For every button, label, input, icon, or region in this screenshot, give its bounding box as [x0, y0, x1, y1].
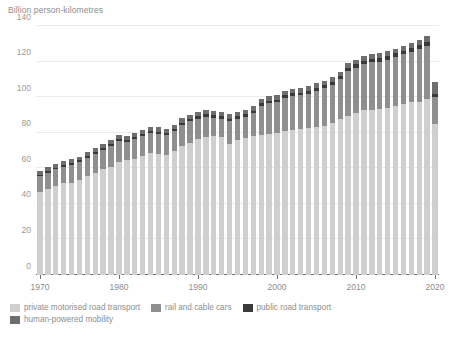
bar-segment	[219, 137, 224, 275]
bar	[69, 159, 74, 275]
y-axis-tick-label: 120	[17, 47, 31, 57]
bar	[195, 112, 200, 275]
bar	[353, 60, 358, 275]
bar	[401, 46, 406, 275]
bar-segment	[322, 88, 327, 125]
bar	[424, 36, 429, 275]
bar-segment	[432, 97, 437, 124]
legend-item[interactable]: human-powered mobility	[10, 314, 113, 326]
x-axis-tick-label: 1970	[30, 282, 49, 292]
bar-segment	[290, 96, 295, 130]
bar-segment	[409, 102, 414, 275]
bar-segment	[93, 154, 98, 173]
bar-segment	[361, 110, 366, 275]
bar	[409, 43, 414, 275]
bar	[61, 161, 66, 275]
bar-segment	[353, 113, 358, 275]
bar-segment	[69, 183, 74, 275]
bar-segment	[211, 136, 216, 275]
bar-segment	[243, 138, 248, 275]
bar-segment	[77, 180, 82, 275]
x-axis-tick-label: 2020	[426, 282, 445, 292]
bar	[203, 110, 208, 275]
bar-segment	[259, 106, 264, 135]
bar-segment	[266, 134, 271, 275]
bar	[298, 88, 303, 275]
legend-item[interactable]: public road transport	[243, 302, 332, 314]
bar-segment	[203, 137, 208, 275]
bar-segment	[172, 131, 177, 151]
y-axis-tick-label: 0	[26, 261, 31, 271]
bar-segment	[164, 155, 169, 275]
bar	[393, 49, 398, 275]
bar-segment	[251, 113, 256, 136]
bar-segment	[338, 119, 343, 275]
bar-segment	[77, 162, 82, 180]
bar	[282, 91, 287, 275]
bar-segment	[385, 60, 390, 108]
bar-segment	[37, 176, 42, 192]
legend-item[interactable]: rail and cable cars	[151, 302, 231, 314]
bar	[385, 51, 390, 275]
bar-segment	[306, 128, 311, 275]
bar-segment	[124, 142, 129, 161]
legend-item[interactable]: private motorised road transport	[10, 302, 140, 314]
bar-segment	[274, 102, 279, 132]
bar-series-group	[36, 26, 439, 275]
plot-area: 020406080100120140 197019801990200020102…	[36, 26, 439, 275]
bar	[330, 77, 335, 275]
bar-segment	[156, 154, 161, 275]
bar	[361, 56, 366, 275]
bar-segment	[187, 143, 192, 276]
bar	[219, 112, 224, 275]
bar-segment	[124, 160, 129, 275]
bar-segment	[187, 121, 192, 142]
legend-row-secondary: human-powered mobility	[10, 314, 458, 326]
bar	[132, 133, 137, 275]
bar-segment	[393, 106, 398, 275]
bar-segment	[132, 139, 137, 159]
bar-segment	[377, 109, 382, 275]
bar	[377, 53, 382, 275]
bar-segment	[409, 52, 414, 103]
bar-segment	[148, 153, 153, 275]
bar	[345, 63, 350, 275]
bar	[211, 111, 216, 275]
bar	[314, 83, 319, 275]
bar	[187, 115, 192, 275]
bar	[266, 96, 271, 275]
bar	[53, 164, 58, 275]
bar-segment	[37, 192, 42, 275]
bar-segment	[100, 150, 105, 170]
bar	[179, 118, 184, 275]
bar-segment	[424, 99, 429, 275]
bar-segment	[100, 169, 105, 275]
bar	[77, 157, 82, 275]
bar-segment	[401, 54, 406, 104]
y-axis-tick-label: 100	[17, 83, 31, 93]
bar-segment	[432, 82, 437, 94]
legend-swatch-icon	[151, 304, 161, 312]
chart-container: Billion person-kilometres 02040608010012…	[0, 0, 465, 339]
bar-segment	[259, 135, 264, 275]
bar-segment	[179, 146, 184, 275]
bar-segment	[266, 103, 271, 133]
bar	[172, 125, 177, 275]
bar-segment	[195, 119, 200, 139]
legend-swatch-icon	[10, 316, 20, 324]
bar-segment	[314, 91, 319, 127]
bar-segment	[377, 62, 382, 109]
bar-segment	[108, 167, 113, 275]
bar	[322, 81, 327, 275]
bar-segment	[282, 131, 287, 275]
bar-segment	[385, 108, 390, 275]
bar-segment	[345, 116, 350, 275]
bar-segment	[211, 118, 216, 137]
bar-segment	[290, 130, 295, 275]
bar	[45, 167, 50, 275]
bar-segment	[156, 134, 161, 154]
bar-segment	[417, 102, 422, 275]
bar	[148, 127, 153, 276]
bar-segment	[85, 176, 90, 275]
bar-segment	[282, 98, 287, 131]
